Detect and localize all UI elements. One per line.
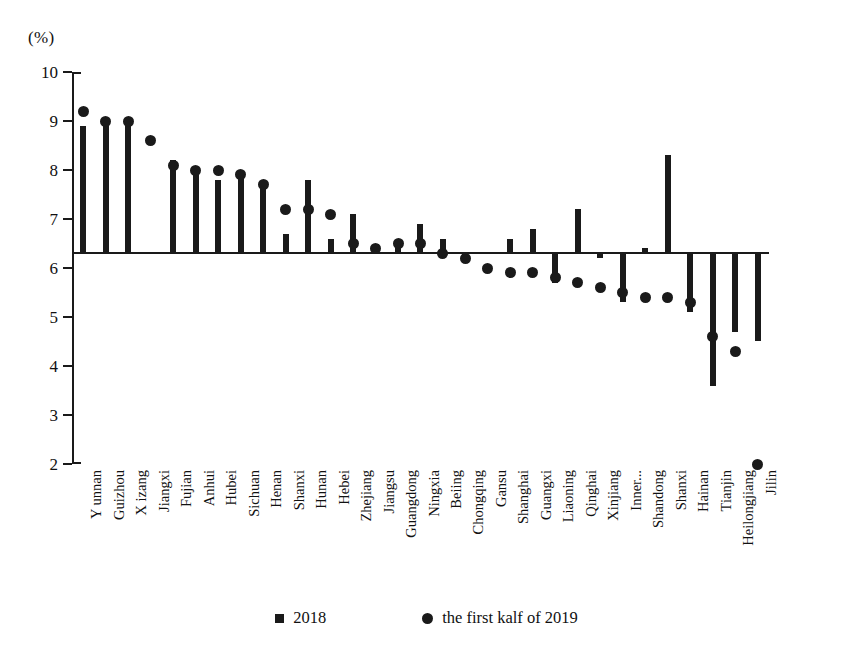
legend-item: 2018 [275, 608, 326, 628]
data-column [634, 72, 656, 464]
x-axis-tick-labels: Y unnanGuizhouX izangJiangxiFujianAnhuiH… [72, 470, 769, 600]
bar-2018 [215, 180, 221, 254]
bar-2018 [530, 229, 536, 254]
dot-2019h1 [527, 267, 538, 278]
y-tick [63, 316, 72, 318]
dot-2019h1 [190, 165, 201, 176]
data-column [522, 72, 544, 464]
x-tick-label: Hunan [313, 470, 330, 509]
dot-2019h1 [78, 106, 89, 117]
x-tick-label: Ningxia [426, 470, 443, 517]
legend-square-icon [275, 614, 284, 623]
data-column [297, 72, 319, 464]
bar-2018 [103, 121, 109, 253]
x-tick-label: Hainan [695, 470, 712, 512]
chart-canvas: (%) 1098765432 Y unnanGuizhouX izangJian… [0, 0, 853, 661]
dot-2019h1 [168, 160, 179, 171]
bar-2018 [260, 185, 266, 254]
dot-2019h1 [752, 459, 763, 470]
bar-2018 [80, 126, 86, 253]
dot-2019h1 [145, 135, 156, 146]
x-tick-label: Shanghai [515, 470, 532, 524]
x-tick-label: Zhejiang [358, 470, 375, 522]
dot-2019h1 [280, 204, 291, 215]
legend-label: 2018 [293, 608, 326, 628]
data-column [679, 72, 701, 464]
data-column [207, 72, 229, 464]
data-column [319, 72, 341, 464]
y-tick [63, 71, 72, 73]
dot-2019h1 [685, 297, 696, 308]
bar-2018 [507, 239, 513, 254]
plot-area [72, 72, 769, 464]
x-tick-label: Gansu [493, 470, 510, 507]
dot-2019h1 [505, 267, 516, 278]
data-column [72, 72, 94, 464]
x-tick-label: Inner... [628, 470, 645, 511]
y-tick [63, 414, 72, 416]
x-tick-label: Heilongjiang [740, 470, 757, 546]
x-tick-label: Beiing [448, 470, 465, 509]
dot-2019h1 [100, 116, 111, 127]
y-tick-label: 8 [24, 162, 58, 179]
y-tick-label: 5 [24, 309, 58, 326]
dot-2019h1 [550, 272, 561, 283]
x-tick-label: Hubei [223, 470, 240, 505]
x-tick-label: Y unnan [88, 470, 105, 519]
y-tick [63, 120, 72, 122]
dot-2019h1 [572, 277, 583, 288]
x-tick-label: Guizhou [111, 470, 128, 520]
y-tick-label: 4 [24, 358, 58, 375]
baseline [72, 252, 769, 254]
data-column [94, 72, 116, 464]
dot-2019h1 [482, 263, 493, 274]
bar-2018 [665, 155, 671, 253]
y-tick [63, 169, 72, 171]
y-tick-label: 7 [24, 211, 58, 228]
data-column [612, 72, 634, 464]
bar-2018 [328, 239, 334, 254]
data-column [589, 72, 611, 464]
dot-2019h1 [303, 204, 314, 215]
legend-item: the first kalf of 2019 [422, 608, 578, 628]
data-column [702, 72, 724, 464]
dot-2019h1 [730, 346, 741, 357]
dot-2019h1 [460, 253, 471, 264]
chart-legend: 2018the first kalf of 2019 [0, 608, 853, 628]
x-tick-label: X izang [133, 470, 150, 516]
dot-2019h1 [123, 116, 134, 127]
bar-2018 [125, 121, 131, 253]
x-tick-label: Jilin [763, 470, 780, 495]
data-column [117, 72, 139, 464]
bar-2018 [732, 253, 738, 331]
data-column [184, 72, 206, 464]
x-tick-label: Sichuan [246, 470, 263, 517]
bar-2018 [305, 180, 311, 254]
data-column [477, 72, 499, 464]
dot-2019h1 [235, 169, 246, 180]
data-column [747, 72, 769, 464]
x-tick-label: Chongqing [470, 470, 487, 534]
x-tick-label: Qinghai [583, 470, 600, 517]
bar-2018 [170, 160, 176, 253]
y-tick [63, 365, 72, 367]
data-column [364, 72, 386, 464]
y-tick-label: 6 [24, 260, 58, 277]
legend-circle-icon [422, 613, 433, 624]
data-column [139, 72, 161, 464]
y-axis-tick-labels: 1098765432 [24, 72, 58, 464]
y-tick-label: 3 [24, 407, 58, 424]
y-tick [63, 267, 72, 269]
data-column [544, 72, 566, 464]
data-column [409, 72, 431, 464]
dot-2019h1 [617, 287, 628, 298]
data-column [387, 72, 409, 464]
y-tick-label: 2 [24, 456, 58, 473]
legend-label: the first kalf of 2019 [442, 608, 578, 628]
y-axis-unit-label: (%) [28, 28, 54, 48]
y-tick [63, 218, 72, 220]
y-tick-label: 9 [24, 113, 58, 130]
dot-2019h1 [595, 282, 606, 293]
x-tick-label: Liaoning [560, 470, 577, 522]
x-tick-label: Henan [268, 470, 285, 508]
